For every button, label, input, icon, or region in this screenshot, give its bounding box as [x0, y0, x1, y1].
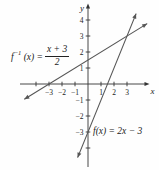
x-tick-label: −3: [45, 88, 53, 97]
function-graph-figure: −3−2−1123−3−2−11234xy f−1 (x) = x + 3 2 …: [0, 0, 159, 170]
x-tick-label: 2: [112, 88, 116, 97]
x-axis-label: x: [150, 86, 155, 96]
arrowhead: [132, 14, 136, 19]
inverse-exponent: −1: [14, 49, 22, 56]
f-equation-label: f(x) = 2x − 3: [93, 126, 142, 136]
x-tick-label: −2: [58, 88, 66, 97]
y-tick-label: −3: [76, 128, 84, 137]
y-tick-label: 2: [80, 48, 84, 57]
arrowhead: [86, 4, 90, 9]
f-inverse-equation-label: f−1 (x) = x + 3 2: [11, 45, 69, 68]
arrowhead: [78, 152, 82, 157]
x-tick-label: 3: [125, 88, 129, 97]
f-inverse-lhs: f−1 (x) =: [11, 50, 43, 62]
f-inverse-fraction: x + 3 2: [45, 45, 69, 68]
fraction-numerator: x + 3: [45, 45, 69, 57]
y-tick-label: 4: [80, 16, 84, 25]
arrowhead: [145, 82, 150, 86]
y-tick-label: −2: [76, 112, 84, 121]
y-tick-label: −1: [76, 96, 84, 105]
fraction-denominator: 2: [55, 57, 60, 68]
y-tick-label: 3: [80, 32, 84, 41]
y-axis-label: y: [79, 3, 84, 13]
graph-svg: −3−2−1123−3−2−11234xy: [0, 0, 159, 170]
